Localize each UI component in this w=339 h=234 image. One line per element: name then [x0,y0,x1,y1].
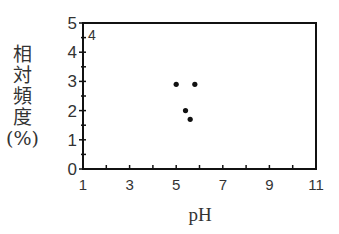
data-point [174,82,179,87]
x-tick-label: 5 [172,176,180,193]
x-axis-label: pH [160,204,240,226]
y-tick-label: 1 [68,131,77,150]
panel-label: 4 [88,27,96,43]
data-points [174,82,198,122]
data-point [192,82,197,87]
scatter-chart: 1357911 012345 4 [0,0,339,234]
y-tick-label: 4 [68,43,77,62]
x-tick-label: 3 [125,176,133,193]
x-tick-label: 1 [79,176,87,193]
y-axis-label: 相 対 頻 度 (%) [6,44,38,149]
y-axis-label-line: 頻 [6,86,38,107]
y-axis-label-line: 対 [6,65,38,86]
data-point [188,117,193,122]
x-tick-label: 9 [265,176,273,193]
plot-frame [83,23,316,169]
y-tick-label: 2 [68,102,77,121]
y-axis-label-line: 相 [6,44,38,65]
y-axis-label-line: (%) [6,128,38,149]
x-tick-label: 7 [219,176,227,193]
data-point [183,108,188,113]
y-axis-label-line: 度 [6,107,38,128]
y-tick-label: 0 [68,160,77,179]
y-tick-label: 3 [68,72,77,91]
x-tick-label: 11 [308,176,324,193]
y-tick-label: 5 [68,14,77,33]
